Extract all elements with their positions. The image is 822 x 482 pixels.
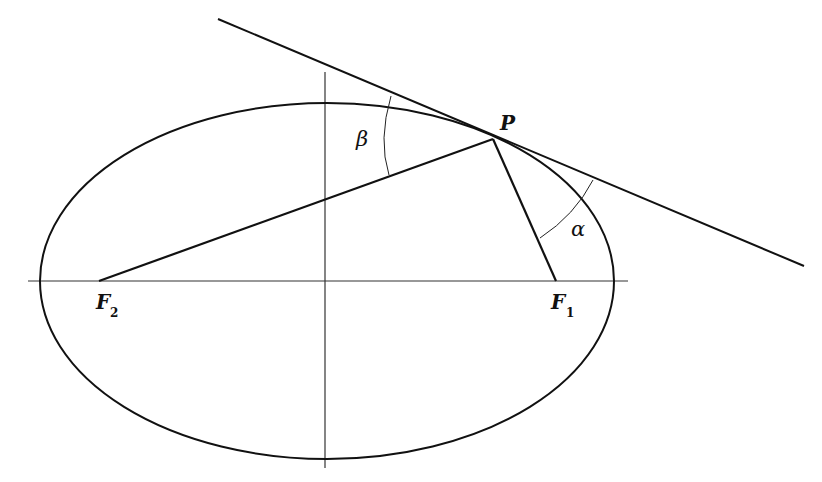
tangent-line [218,19,804,266]
focal-radius-f1 [493,139,556,281]
label-angle-beta: β [355,127,368,151]
ellipse-diagram: P β α F 2 F 1 [0,0,822,482]
focal-radius-f2 [99,139,493,281]
label-angle-alpha: α [571,217,585,241]
label-focus-f2-subscript: 2 [110,306,118,320]
label-focus-f1-subscript: 1 [566,306,574,320]
label-point-p: P [499,111,516,135]
label-focus-f1: F [550,290,567,314]
